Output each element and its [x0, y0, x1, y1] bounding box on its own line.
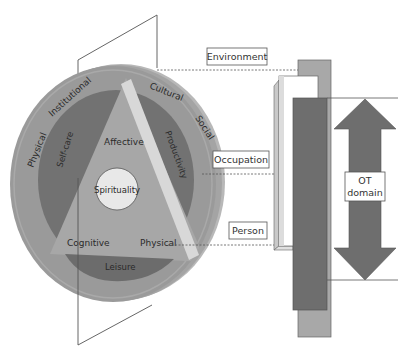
bar-person-face [279, 76, 284, 246]
label-occ-leisure: Leisure [105, 262, 136, 272]
callout-environment: Environment [207, 48, 268, 65]
callout-person-text: Person [232, 225, 264, 236]
callout-occupation-text: Occupation [214, 154, 268, 165]
callout-occupation: Occupation [213, 151, 269, 168]
label-spirituality: Spirituality [94, 185, 140, 195]
ot-domain-line1: OT [358, 175, 371, 186]
bar-person-side [274, 80, 279, 250]
callout-environment-text: Environment [207, 51, 268, 62]
callout-person: Person [229, 222, 267, 239]
label-person-physical: Physical [140, 238, 177, 248]
layer-bars [274, 60, 331, 337]
label-person-cognitive: Cognitive [67, 238, 110, 248]
ot-domain-label: OT domain [345, 172, 385, 201]
label-person-affective: Affective [104, 137, 144, 147]
ot-domain-line2: domain [347, 187, 383, 198]
bar-occupation [293, 98, 327, 310]
ot-model-diagram: Physical Institutional Cultural Social S… [0, 0, 410, 358]
